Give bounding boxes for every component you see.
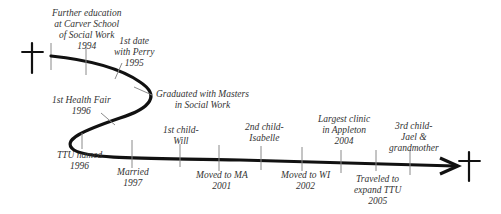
event-label-first-date: 1st date with Perry 1995 <box>114 36 154 69</box>
event-label-third-child: 3rd child- Jael & grandmother <box>389 121 439 154</box>
label-line: of Social Work <box>52 30 121 41</box>
label-line: 1996 <box>52 106 111 117</box>
label-line: 1995 <box>114 58 154 69</box>
label-line: TTU named <box>57 150 102 161</box>
label-line: 1st child- <box>163 125 199 136</box>
label-line: in Appleton <box>318 125 370 136</box>
label-line: 2005 <box>354 196 401 207</box>
label-line: Will <box>163 136 199 147</box>
label-line: 1997 <box>117 178 149 189</box>
start-cross-icon <box>22 43 43 73</box>
label-line: in Social Work <box>156 100 249 111</box>
label-line: 1996 <box>57 161 102 172</box>
event-label-moved-wi: Moved to WI 2002 <box>281 170 330 192</box>
label-line: Moved to WI <box>281 170 330 181</box>
label-line: Traveled to <box>354 174 401 185</box>
label-line: 2001 <box>196 181 248 192</box>
label-line: Jael & <box>389 132 439 143</box>
label-line: Largest clinic <box>318 114 370 125</box>
label-line: with Perry <box>114 47 154 58</box>
label-line: 1st Health Fair <box>52 95 111 106</box>
end-cross-icon <box>459 152 480 181</box>
event-label-married: Married 1997 <box>117 167 149 189</box>
label-line: grandmother <box>389 143 439 154</box>
event-label-traveled: Traveled to expand TTU 2005 <box>354 174 401 207</box>
label-line: Graduated with Masters <box>156 89 249 100</box>
event-label-first-child: 1st child- Will <box>163 125 199 147</box>
label-line: 3rd child- <box>389 121 439 132</box>
label-line: Moved to MA <box>196 170 248 181</box>
label-line: 1994 <box>52 41 121 52</box>
event-label-moved-ma: Moved to MA 2001 <box>196 170 248 192</box>
event-label-graduated: Graduated with Masters in Social Work <box>156 89 249 111</box>
label-line: 1st date <box>114 36 154 47</box>
label-line: 2002 <box>281 181 330 192</box>
label-line: Isabelle <box>245 133 284 144</box>
label-line: 2004 <box>318 136 370 147</box>
event-label-second-child: 2nd child- Isabelle <box>245 122 284 144</box>
label-line: 2nd child- <box>245 122 284 133</box>
event-label-health-fair: 1st Health Fair 1996 <box>52 95 111 117</box>
label-line: Further education <box>52 8 121 19</box>
event-label-ttu-named: TTU named 1996 <box>57 150 102 172</box>
label-line: Married <box>117 167 149 178</box>
label-line: at Carver School <box>52 19 121 30</box>
label-line: expand TTU <box>354 185 401 196</box>
event-label-further-education: Further education at Carver School of So… <box>52 8 121 52</box>
event-label-largest-clinic: Largest clinic in Appleton 2004 <box>318 114 370 147</box>
